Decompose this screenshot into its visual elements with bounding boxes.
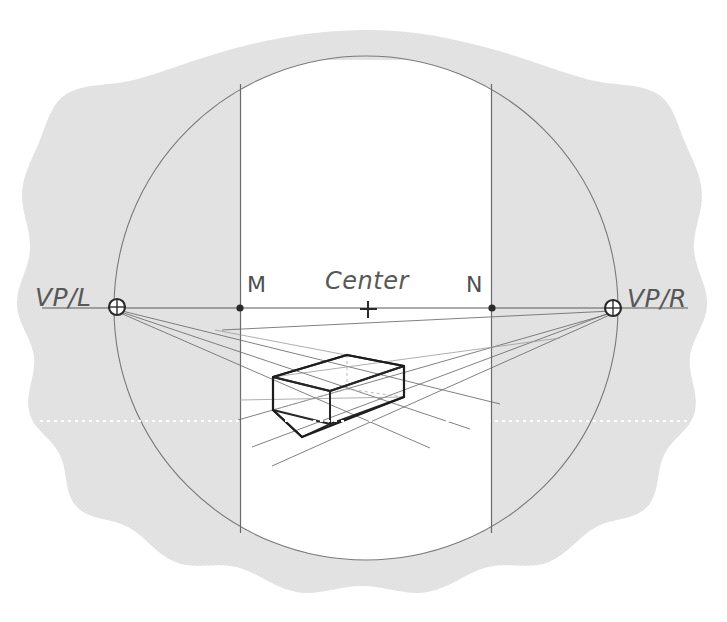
measure-point-n-label: N xyxy=(466,272,482,297)
vp-left-label: VP/L xyxy=(35,283,92,312)
center-label: Center xyxy=(325,267,409,295)
measure-point-n-marker xyxy=(488,304,495,311)
measure-point-m-label: M xyxy=(247,272,266,297)
measure-point-m-marker xyxy=(236,304,243,311)
perspective-diagram-canvas: VP/L VP/R M N Center xyxy=(0,0,727,622)
vp-right-marker xyxy=(605,300,621,316)
vp-right-label: VP/R xyxy=(627,284,687,313)
vp-left-marker xyxy=(109,299,125,315)
diagram-svg xyxy=(0,0,727,622)
